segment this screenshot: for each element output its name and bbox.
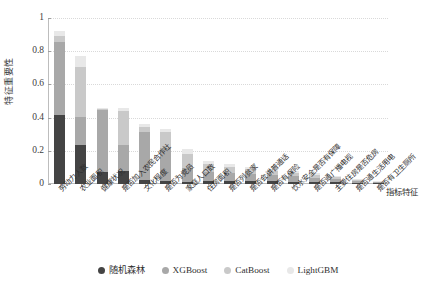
legend-label: CatBoost — [235, 266, 269, 275]
bar-segment — [75, 117, 86, 145]
y-axis-tick-label: 1 — [14, 13, 44, 23]
y-axis-tick-label: 0.4 — [14, 113, 44, 123]
legend-item[interactable]: 随机森林 — [98, 266, 145, 275]
bar-segment — [54, 115, 65, 184]
y-axis-title: 特征重要性 — [4, 48, 14, 114]
legend-swatch-icon — [224, 267, 231, 274]
y-axis-tick-label: 0.8 — [14, 46, 44, 56]
legend-item[interactable]: LightGBM — [287, 266, 339, 275]
y-axis-tick-label: 0.2 — [14, 146, 44, 156]
legend-swatch-icon — [98, 267, 105, 274]
legend-label: LightGBM — [298, 266, 339, 275]
bar-segment — [118, 111, 129, 144]
chart-legend: 随机森林XGBoostCatBoostLightGBM — [0, 266, 436, 275]
y-axis-tick-mark — [48, 184, 51, 185]
x-axis-title: 指标特征 — [386, 188, 418, 197]
bar-segment — [75, 56, 86, 67]
legend-label: XGBoost — [173, 266, 208, 275]
y-axis-tick-label: 0 — [14, 179, 44, 189]
bar-segment — [97, 110, 108, 172]
feature-importance-chart: 00.20.40.60.81 特征重要性 劳动力人数农业面积健康状况是否加入农民… — [0, 0, 436, 296]
legend-label: 随机森林 — [109, 266, 145, 275]
bar-segment — [75, 67, 86, 117]
y-axis-tick-label: 0.6 — [14, 79, 44, 89]
bar-column — [54, 31, 65, 184]
legend-swatch-icon — [162, 267, 169, 274]
legend-item[interactable]: XGBoost — [162, 266, 208, 275]
bar-series-group — [49, 18, 388, 184]
legend-swatch-icon — [287, 267, 294, 274]
bar-segment — [54, 42, 65, 116]
legend-item[interactable]: CatBoost — [224, 266, 269, 275]
